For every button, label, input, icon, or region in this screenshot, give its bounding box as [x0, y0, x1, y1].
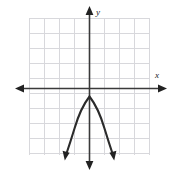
- x-axis-label: x: [154, 70, 159, 80]
- y-axis-arrow-down-icon: [86, 161, 94, 170]
- parabola-left-arrow-icon: [63, 151, 70, 161]
- y-axis-label: y: [95, 7, 100, 17]
- x-axis: [15, 85, 167, 93]
- x-axis-arrow-left-icon: [15, 85, 24, 93]
- parabola-right-arrow-icon: [109, 151, 116, 161]
- graph-figure: x y: [0, 0, 173, 174]
- y-axis-arrow-up-icon: [86, 6, 94, 15]
- coordinate-plane-svg: x y: [0, 0, 173, 174]
- x-axis-arrow-right-icon: [158, 85, 167, 93]
